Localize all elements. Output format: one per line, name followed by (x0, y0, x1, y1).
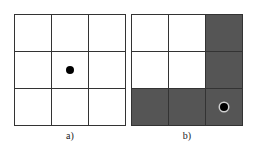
shaded-cell (206, 15, 242, 51)
empty-cell (169, 52, 205, 88)
empty-cell (89, 52, 125, 88)
empty-cell (15, 15, 51, 51)
grid-panel-b (131, 14, 243, 126)
dot-marker-icon (66, 66, 74, 74)
empty-cell (89, 15, 125, 51)
empty-cell (15, 89, 51, 125)
shaded-cell (206, 89, 242, 125)
empty-cell (89, 89, 125, 125)
panel-label-b: b) (167, 130, 207, 141)
empty-cell (52, 15, 88, 51)
empty-cell (132, 52, 168, 88)
grid-panel-a (14, 14, 126, 126)
dot-marker-icon (220, 103, 228, 111)
shaded-cell (206, 52, 242, 88)
empty-cell (52, 89, 88, 125)
panel-label-a: a) (50, 130, 90, 141)
shaded-cell (169, 89, 205, 125)
empty-cell (169, 15, 205, 51)
empty-cell (52, 52, 88, 88)
shaded-cell (132, 89, 168, 125)
empty-cell (132, 15, 168, 51)
empty-cell (15, 52, 51, 88)
